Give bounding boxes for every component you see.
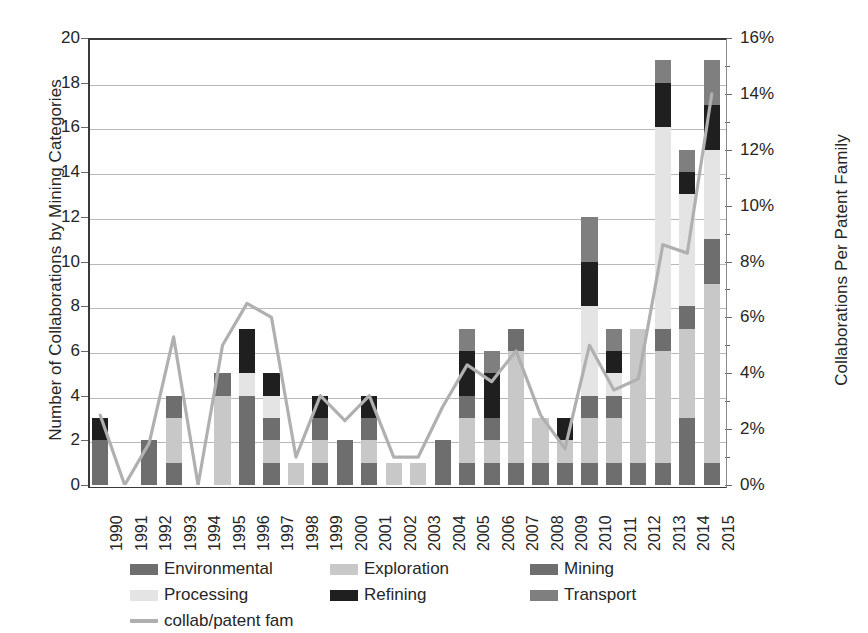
bar-segment[interactable] bbox=[484, 463, 500, 485]
bar-stack[interactable] bbox=[557, 418, 573, 485]
bar-segment[interactable] bbox=[704, 239, 720, 284]
bar-segment[interactable] bbox=[288, 463, 304, 485]
bar-segment[interactable] bbox=[532, 463, 548, 485]
bar-stack[interactable] bbox=[386, 463, 402, 485]
bar-segment[interactable] bbox=[410, 463, 426, 485]
bar-segment[interactable] bbox=[459, 351, 475, 396]
bar-segment[interactable] bbox=[214, 396, 230, 485]
bar-segment[interactable] bbox=[361, 440, 377, 462]
bar-segment[interactable] bbox=[263, 440, 279, 462]
bar-segment[interactable] bbox=[581, 217, 597, 262]
bar-stack[interactable] bbox=[459, 329, 475, 485]
bar-segment[interactable] bbox=[508, 351, 524, 463]
bar-segment[interactable] bbox=[312, 463, 328, 485]
bar-stack[interactable] bbox=[190, 484, 206, 485]
legend-item[interactable]: Exploration bbox=[330, 559, 530, 579]
bar-segment[interactable] bbox=[312, 396, 328, 418]
legend-item[interactable]: Mining bbox=[530, 559, 730, 579]
bar-stack[interactable] bbox=[166, 396, 182, 485]
bar-segment[interactable] bbox=[361, 396, 377, 418]
bar-stack[interactable] bbox=[679, 150, 695, 485]
bar-stack[interactable] bbox=[312, 396, 328, 485]
legend-item[interactable]: Processing bbox=[130, 585, 330, 605]
bar-segment[interactable] bbox=[606, 396, 622, 418]
bar-segment[interactable] bbox=[679, 329, 695, 418]
bar-segment[interactable] bbox=[581, 463, 597, 485]
bar-segment[interactable] bbox=[141, 463, 157, 485]
bar-segment[interactable] bbox=[239, 373, 255, 395]
bar-segment[interactable] bbox=[532, 418, 548, 463]
bar-segment[interactable] bbox=[459, 418, 475, 463]
bar-segment[interactable] bbox=[704, 150, 720, 239]
bar-segment[interactable] bbox=[435, 440, 451, 462]
bar-segment[interactable] bbox=[166, 396, 182, 418]
bar-segment[interactable] bbox=[655, 127, 671, 328]
bar-segment[interactable] bbox=[557, 463, 573, 485]
bar-segment[interactable] bbox=[214, 373, 230, 395]
bar-segment[interactable] bbox=[484, 440, 500, 462]
bar-stack[interactable] bbox=[263, 373, 279, 485]
bar-segment[interactable] bbox=[166, 463, 182, 485]
legend-item[interactable]: collab/patent fam bbox=[130, 611, 340, 631]
bar-stack[interactable] bbox=[532, 418, 548, 485]
bar-segment[interactable] bbox=[606, 329, 622, 351]
bar-segment[interactable] bbox=[557, 440, 573, 462]
bar-stack[interactable] bbox=[484, 351, 500, 485]
bar-segment[interactable] bbox=[508, 329, 524, 351]
bar-segment[interactable] bbox=[630, 329, 646, 463]
bar-segment[interactable] bbox=[606, 463, 622, 485]
bar-stack[interactable] bbox=[361, 396, 377, 485]
bar-segment[interactable] bbox=[484, 373, 500, 418]
bar-segment[interactable] bbox=[459, 463, 475, 485]
bar-segment[interactable] bbox=[435, 463, 451, 485]
bar-stack[interactable] bbox=[117, 484, 133, 485]
bar-segment[interactable] bbox=[581, 418, 597, 463]
legend-item[interactable]: Transport bbox=[530, 585, 730, 605]
bar-segment[interactable] bbox=[239, 329, 255, 374]
bar-stack[interactable] bbox=[214, 373, 230, 485]
bar-segment[interactable] bbox=[655, 329, 671, 351]
bar-stack[interactable] bbox=[141, 440, 157, 485]
bar-segment[interactable] bbox=[606, 418, 622, 463]
bar-segment[interactable] bbox=[361, 418, 377, 440]
bar-segment[interactable] bbox=[484, 351, 500, 373]
bar-segment[interactable] bbox=[337, 440, 353, 462]
bar-stack[interactable] bbox=[704, 60, 720, 485]
bar-segment[interactable] bbox=[484, 418, 500, 440]
bar-segment[interactable] bbox=[312, 418, 328, 440]
bar-segment[interactable] bbox=[679, 150, 695, 172]
bar-segment[interactable] bbox=[679, 418, 695, 485]
bar-segment[interactable] bbox=[92, 463, 108, 485]
bar-segment[interactable] bbox=[141, 440, 157, 462]
bar-segment[interactable] bbox=[704, 463, 720, 485]
bar-segment[interactable] bbox=[508, 463, 524, 485]
bar-stack[interactable] bbox=[239, 329, 255, 485]
bar-segment[interactable] bbox=[459, 329, 475, 351]
bar-segment[interactable] bbox=[263, 396, 279, 418]
legend-item[interactable]: Environmental bbox=[130, 559, 330, 579]
bar-segment[interactable] bbox=[704, 105, 720, 150]
bar-segment[interactable] bbox=[679, 194, 695, 306]
bar-segment[interactable] bbox=[239, 396, 255, 441]
bar-stack[interactable] bbox=[630, 329, 646, 485]
bar-stack[interactable] bbox=[581, 217, 597, 485]
bar-segment[interactable] bbox=[581, 306, 597, 395]
bar-segment[interactable] bbox=[655, 463, 671, 485]
bar-stack[interactable] bbox=[92, 418, 108, 485]
bar-stack[interactable] bbox=[288, 463, 304, 485]
bar-stack[interactable] bbox=[337, 440, 353, 485]
bar-stack[interactable] bbox=[655, 60, 671, 485]
bar-segment[interactable] bbox=[606, 351, 622, 373]
bar-segment[interactable] bbox=[704, 60, 720, 105]
bar-segment[interactable] bbox=[679, 172, 695, 194]
bar-segment[interactable] bbox=[239, 440, 255, 485]
bar-segment[interactable] bbox=[459, 396, 475, 418]
bar-stack[interactable] bbox=[410, 463, 426, 485]
bar-segment[interactable] bbox=[655, 60, 671, 82]
bar-segment[interactable] bbox=[361, 463, 377, 485]
bar-segment[interactable] bbox=[263, 373, 279, 395]
bar-segment[interactable] bbox=[92, 418, 108, 440]
bar-segment[interactable] bbox=[337, 463, 353, 485]
bar-segment[interactable] bbox=[655, 351, 671, 463]
bar-segment[interactable] bbox=[263, 463, 279, 485]
